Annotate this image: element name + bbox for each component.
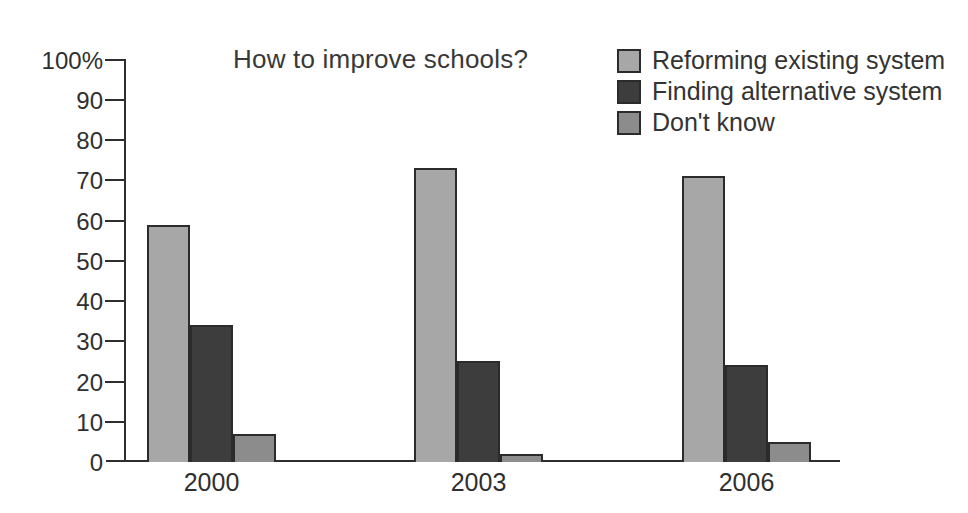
y-axis-label-30: 30 [31, 328, 103, 356]
y-axis-tick-90 [105, 99, 125, 101]
bar-2003-don-t-know [500, 454, 543, 462]
y-axis-label-80: 80 [31, 127, 103, 155]
y-axis-tick-10 [105, 421, 125, 423]
plot-area: 0102030405060708090100%200020032006 [0, 0, 968, 513]
bar-2006-reforming-existing-system [682, 176, 725, 462]
bar-2003-reforming-existing-system [414, 168, 457, 462]
y-axis-label-60: 60 [31, 208, 103, 236]
y-axis-tick-70 [105, 179, 125, 181]
x-axis-label-2006: 2006 [687, 468, 807, 497]
y-axis-label-40: 40 [31, 288, 103, 316]
y-axis-tick-40 [105, 300, 125, 302]
y-axis-label-10: 10 [31, 409, 103, 437]
y-axis-tick-100 [105, 59, 125, 61]
y-axis-tick-60 [105, 220, 125, 222]
y-axis-label-70: 70 [31, 167, 103, 195]
bar-2003-finding-alternative-system [457, 361, 500, 462]
bar-2006-finding-alternative-system [725, 365, 768, 462]
bar-2000-finding-alternative-system [190, 325, 233, 462]
y-axis-label-0: 0 [31, 449, 103, 477]
y-axis-label-100: 100% [31, 47, 103, 75]
x-axis-label-2003: 2003 [419, 468, 539, 497]
bar-2006-don-t-know [768, 442, 811, 462]
y-axis-tick-30 [105, 340, 125, 342]
y-axis-label-50: 50 [31, 248, 103, 276]
x-axis-label-2000: 2000 [152, 468, 272, 497]
bar-2000-reforming-existing-system [147, 225, 190, 462]
chart-page: How to improve schools? Reforming existi… [0, 0, 968, 513]
y-axis-label-90: 90 [31, 87, 103, 115]
y-axis-tick-20 [105, 381, 125, 383]
y-axis-tick-50 [105, 260, 125, 262]
y-axis-tick-80 [105, 139, 125, 141]
y-axis-label-20: 20 [31, 369, 103, 397]
bar-2000-don-t-know [233, 434, 276, 462]
